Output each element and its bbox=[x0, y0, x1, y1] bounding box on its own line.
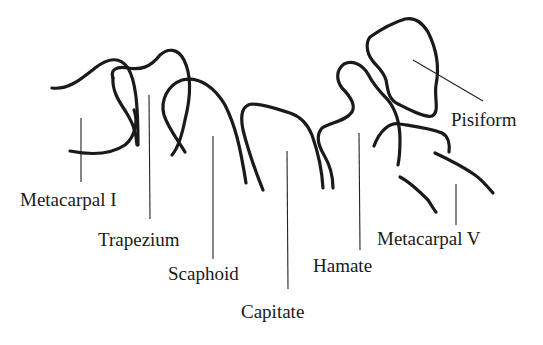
label-hamate: Hamate bbox=[313, 256, 372, 275]
metacarpal-i-lower-outline bbox=[70, 110, 136, 153]
metacarpal-v-upper-outline bbox=[374, 124, 449, 152]
carpal-diagram: Metacarpal I Trapezium Scaphoid Capitate… bbox=[0, 0, 543, 345]
pisiform-leader bbox=[413, 60, 483, 101]
label-pisiform: Pisiform bbox=[451, 110, 516, 129]
metacarpal-i-outline bbox=[52, 60, 138, 145]
capitate-leader bbox=[287, 151, 288, 289]
scaphoid-outline bbox=[163, 79, 246, 183]
bone-outlines bbox=[0, 0, 543, 345]
label-metacarpal-i: Metacarpal I bbox=[20, 190, 117, 209]
hamate-leader bbox=[359, 133, 360, 250]
label-capitate: Capitate bbox=[241, 302, 304, 321]
label-trapezium: Trapezium bbox=[98, 230, 180, 249]
pisiform-outline bbox=[367, 19, 437, 117]
trapezium-leader bbox=[149, 95, 150, 219]
metacarpal-v-outline bbox=[435, 153, 493, 193]
label-metacarpal-v: Metacarpal V bbox=[377, 229, 481, 248]
metacarpal-v-lower-outline bbox=[400, 177, 436, 212]
label-scaphoid: Scaphoid bbox=[168, 264, 239, 283]
capitate-outline bbox=[242, 104, 323, 190]
